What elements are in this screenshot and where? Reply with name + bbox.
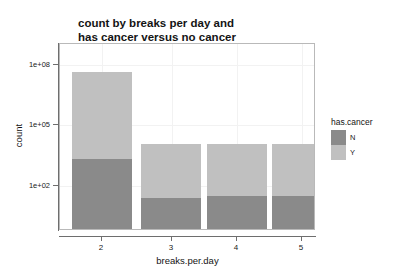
x-tick-mark-5: [301, 236, 302, 241]
chart-legend: has.cancer N Y: [331, 117, 373, 160]
legend-label-Y: Y: [350, 148, 355, 157]
bar-stack-4[interactable]: [207, 60, 267, 230]
legend-title: has.cancer: [331, 117, 373, 127]
legend-swatch-Y: [331, 145, 346, 160]
y-axis-line: [58, 43, 59, 231]
y-tick-mark-1e5: [53, 124, 59, 125]
bar-stack-2[interactable]: [72, 60, 132, 230]
y-tick-label-1e2: 1e+02: [29, 181, 50, 190]
bar-segment-4-Y[interactable]: [207, 144, 267, 196]
bar-stack-5[interactable]: [272, 60, 315, 230]
bar-segment-2-Y[interactable]: [72, 72, 132, 159]
legend-item-Y[interactable]: Y: [331, 145, 373, 160]
plot-panel: [59, 43, 315, 230]
legend-item-N[interactable]: N: [331, 130, 373, 145]
x-tick-mark-4: [236, 236, 237, 241]
bar-segment-2-N[interactable]: [72, 159, 132, 230]
bar-segment-3-N[interactable]: [141, 198, 201, 230]
bar-segment-4-N[interactable]: [207, 196, 267, 230]
y-tick-mark-1e2: [53, 185, 59, 186]
bar-segment-5-Y[interactable]: [272, 144, 315, 196]
bar-segment-5-N[interactable]: [272, 196, 315, 230]
legend-swatch-N: [331, 130, 346, 145]
x-tick-mark-3: [171, 236, 172, 241]
legend-label-N: N: [350, 133, 355, 142]
chart-figure: count by breaks per day and has cancer v…: [0, 0, 398, 277]
x-tick-label-5: 5: [286, 243, 316, 252]
y-tick-label-1e8: 1e+08: [29, 60, 50, 69]
x-axis-line: [59, 236, 316, 237]
x-tick-label-3: 3: [156, 243, 186, 252]
bar-stack-3[interactable]: [141, 60, 201, 230]
x-tick-label-4: 4: [221, 243, 251, 252]
x-tick-mark-2: [101, 236, 102, 241]
x-tick-label-2: 2: [86, 243, 116, 252]
y-tick-mark-1e8: [53, 64, 59, 65]
x-axis-title: breaks.per.day: [59, 255, 316, 266]
y-axis-title: count: [13, 106, 24, 166]
y-tick-label-1e5: 1e+05: [29, 120, 50, 129]
bar-segment-3-Y[interactable]: [141, 144, 201, 198]
chart-title: count by breaks per day and has cancer v…: [78, 16, 298, 44]
